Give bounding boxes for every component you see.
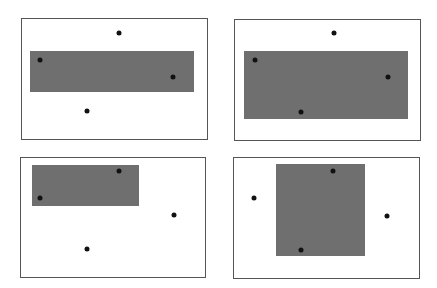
data-point (117, 169, 122, 174)
query-rectangle (32, 165, 139, 206)
data-point (252, 196, 257, 201)
data-point (299, 110, 304, 115)
data-point (253, 58, 258, 63)
data-point (299, 248, 304, 253)
data-point (331, 169, 336, 174)
query-rectangle (276, 164, 365, 256)
query-rectangle (30, 51, 194, 92)
data-point (38, 58, 43, 63)
data-point (172, 213, 177, 218)
data-point (38, 196, 43, 201)
data-point (171, 75, 176, 80)
data-point (385, 214, 390, 219)
data-point (117, 31, 122, 36)
data-point (85, 247, 90, 252)
query-rectangle (244, 51, 408, 119)
data-point (386, 75, 391, 80)
data-point (332, 31, 337, 36)
data-point (85, 109, 90, 114)
